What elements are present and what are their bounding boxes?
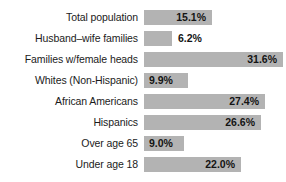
value-label: 9.9%	[149, 73, 173, 88]
chart-row: Families w/female heads31.6%	[0, 52, 286, 67]
bar-chart: Total population15.1%Husband–wife famili…	[0, 0, 286, 182]
value-label: 15.1%	[170, 10, 206, 25]
category-label: Families w/female heads	[25, 52, 138, 67]
chart-row: Over age 659.0%	[0, 136, 286, 151]
chart-row: Total population15.1%	[0, 10, 286, 25]
value-label: 22.0%	[199, 157, 235, 172]
chart-row: Under age 1822.0%	[0, 157, 286, 172]
category-label: Over age 65	[81, 136, 138, 151]
category-label: Under age 18	[76, 157, 138, 172]
category-label: Husband–wife families	[35, 31, 138, 46]
value-label: 27.4%	[223, 94, 259, 109]
chart-row: African Americans27.4%	[0, 94, 286, 109]
category-label: African Americans	[55, 94, 138, 109]
category-label: Whites (Non-Hispanic)	[35, 73, 138, 88]
bar	[144, 31, 172, 46]
category-label: Hispanics	[93, 115, 138, 130]
chart-row: Hispanics26.6%	[0, 115, 286, 130]
chart-row: Husband–wife families6.2%	[0, 31, 286, 46]
value-label: 26.6%	[219, 115, 255, 130]
value-label: 31.6%	[241, 52, 277, 67]
value-label: 6.2%	[178, 31, 202, 46]
value-label: 9.0%	[149, 136, 173, 151]
chart-row: Whites (Non-Hispanic)9.9%	[0, 73, 286, 88]
category-label: Total population	[66, 10, 138, 25]
